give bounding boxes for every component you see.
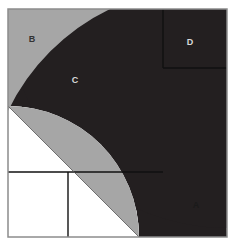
region-label-d: D (187, 37, 194, 47)
figure-container: B C D A (0, 0, 236, 249)
geometric-figure: B C D A (0, 0, 236, 249)
region-label-a: A (193, 200, 200, 210)
region-label-c: C (72, 75, 79, 85)
region-label-b: B (29, 34, 36, 44)
